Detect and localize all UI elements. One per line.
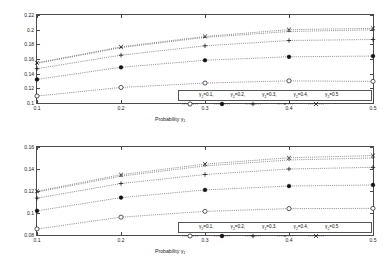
- ytick-mark-right: [370, 213, 373, 214]
- ytick-mark-right: [370, 44, 373, 45]
- xaxis-label-subscript: 1: [183, 119, 185, 123]
- ytick-mark: [37, 44, 40, 45]
- xtick-label: 0.5: [370, 106, 377, 111]
- axes-filtering: 0.10.120.140.160.180.20.220.10.20.30.40.…: [36, 14, 374, 104]
- xtick-mark: [37, 15, 38, 18]
- ytick-mark: [37, 88, 40, 89]
- legend-entry-0.3[interactable]: γ2=0.3,: [245, 225, 277, 230]
- ytick-label: 0.12: [24, 86, 34, 91]
- legend-entry-0.2[interactable]: γ2=0.2,: [214, 93, 246, 98]
- xtick-mark-top: [37, 100, 38, 103]
- xtick-mark: [373, 147, 374, 150]
- legend-glyph: [251, 234, 256, 239]
- xtick-mark: [289, 147, 290, 150]
- series-marker-0.3: [371, 37, 376, 41]
- xtick-mark: [205, 147, 206, 150]
- xtick-label: 0.2: [118, 106, 125, 111]
- series-marker-0.1: [287, 207, 291, 211]
- legend-glyph: [251, 102, 256, 107]
- ytick-label: 0.2: [27, 27, 34, 32]
- ytick-mark-right: [370, 74, 373, 75]
- legend-glyph: [220, 234, 224, 238]
- legend-marker-0.4: [277, 93, 293, 98]
- ytick-label: 0.1: [27, 211, 34, 216]
- xaxis-label-subscript: 1: [183, 251, 185, 255]
- xtick-mark: [205, 15, 206, 18]
- ytick-mark: [37, 103, 40, 104]
- legend-glyph: [314, 234, 318, 238]
- legend-entry-0.4[interactable]: γ2=0.4,: [277, 225, 309, 230]
- series-marker-0.3: [35, 66, 40, 70]
- ytick-mark: [37, 191, 40, 192]
- series-marker-0.4: [372, 157, 373, 158]
- xtick-label: 0.3: [202, 238, 209, 243]
- series-marker-0.3: [287, 167, 292, 171]
- series-marker-0.3: [119, 181, 124, 185]
- legend-entry-0.1[interactable]: γ2=0.1,: [182, 93, 214, 98]
- series-marker-0.1: [35, 227, 39, 231]
- ytick-label: 0.14: [24, 71, 34, 76]
- figure-canvas: Filtering error variances 0.10.120.140.1…: [0, 0, 392, 264]
- series-marker-0.2: [203, 58, 207, 62]
- ytick-mark-right: [370, 191, 373, 192]
- legend-filtering[interactable]: γ2=0.1,γ2=0.2,γ2=0.3,γ2=0.4,γ2=0.5: [178, 90, 372, 101]
- series-marker-0.5: [371, 154, 375, 158]
- xtick-label: 0.5: [370, 238, 377, 243]
- series-marker-0.1: [119, 215, 123, 219]
- legend-marker-0.5: [308, 93, 324, 98]
- xtick-mark-top: [121, 232, 122, 235]
- xtick-label: 0.2: [118, 238, 125, 243]
- ytick-mark-right: [370, 235, 373, 236]
- legend-glyph: [220, 102, 224, 106]
- xaxis-label-text: Probability γ: [155, 116, 183, 122]
- legend-glyph: [284, 103, 285, 104]
- series-marker-0.2: [371, 54, 375, 58]
- xtick-mark-top: [121, 100, 122, 103]
- legend-label-0.5: γ2=0.5: [325, 225, 338, 230]
- series-marker-0.1: [371, 79, 375, 83]
- xtick-mark: [121, 15, 122, 18]
- series-marker-0.1: [371, 206, 375, 210]
- xtick-mark: [373, 15, 374, 18]
- legend-glyph: [188, 234, 192, 238]
- legend-entry-0.5[interactable]: γ2=0.5: [308, 225, 338, 230]
- ytick-mark: [37, 74, 40, 75]
- xtick-label: 0.3: [202, 106, 209, 111]
- legend-entry-0.1[interactable]: γ2=0.1,: [182, 225, 214, 230]
- series-marker-0.2: [287, 184, 291, 188]
- xtick-mark: [37, 147, 38, 150]
- ytick-label: 0.22: [24, 13, 34, 18]
- ytick-mark-right: [370, 30, 373, 31]
- ytick-mark: [37, 59, 40, 60]
- ytick-label: 0.14: [24, 167, 34, 172]
- legend-marker-0.3: [245, 93, 261, 98]
- legend-marker-0.1: [182, 93, 198, 98]
- legend-label-0.4: γ2=0.4,: [294, 225, 309, 230]
- series-marker-0.1: [35, 94, 39, 98]
- legend-entry-0.2[interactable]: γ2=0.2,: [214, 225, 246, 230]
- ytick-mark: [37, 169, 40, 170]
- legend-entry-0.5[interactable]: γ2=0.5: [308, 93, 338, 98]
- series-marker-0.1: [119, 85, 123, 89]
- xtick-label: 0.1: [34, 238, 41, 243]
- legend-entry-0.4[interactable]: γ2=0.4,: [277, 93, 309, 98]
- legend-label-0.5: γ2=0.5: [325, 93, 338, 98]
- legend-entry-0.3[interactable]: γ2=0.3,: [245, 93, 277, 98]
- ytick-mark: [37, 213, 40, 214]
- ytick-mark-right: [370, 169, 373, 170]
- legend-label-0.1: γ2=0.1,: [199, 225, 214, 230]
- legend-marker-0.5: [308, 225, 324, 230]
- series-marker-0.1: [287, 79, 291, 83]
- xaxis-label-filtering: Probability γ1: [155, 117, 185, 123]
- legend-glyph: [188, 102, 192, 106]
- ytick-label: 0.12: [24, 189, 34, 194]
- legend-label-0.3: γ2=0.3,: [262, 225, 277, 230]
- legend-label-0.4: γ2=0.4,: [294, 93, 309, 98]
- legend-glyph: [314, 102, 318, 106]
- xtick-mark-top: [373, 232, 374, 235]
- xtick-mark-top: [37, 232, 38, 235]
- legend-smoothing[interactable]: γ2=0.1,γ2=0.2,γ2=0.3,γ2=0.4,γ2=0.5: [178, 222, 372, 233]
- legend-marker-0.2: [214, 93, 230, 98]
- axes-smoothing: 0.080.10.120.140.160.10.20.30.40.5γ2=0.1…: [36, 146, 374, 236]
- series-marker-0.2: [35, 78, 39, 82]
